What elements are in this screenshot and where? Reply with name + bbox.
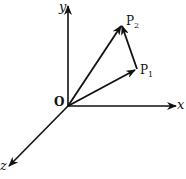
z-axis [9, 106, 68, 166]
z-axis-label: z [0, 159, 7, 172]
p2-label: P2 [126, 15, 139, 30]
diagram-lines [0, 0, 186, 179]
vector-op1 [68, 70, 135, 106]
x-axis-label: x [177, 98, 184, 111]
vector-diagram: y x z O P2 P1 [0, 0, 186, 179]
origin-label: O [54, 96, 64, 108]
y-axis-label: y [59, 0, 66, 13]
vector-p1p2 [122, 26, 137, 69]
p1-label: P1 [140, 64, 153, 79]
vector-op2 [68, 26, 121, 106]
